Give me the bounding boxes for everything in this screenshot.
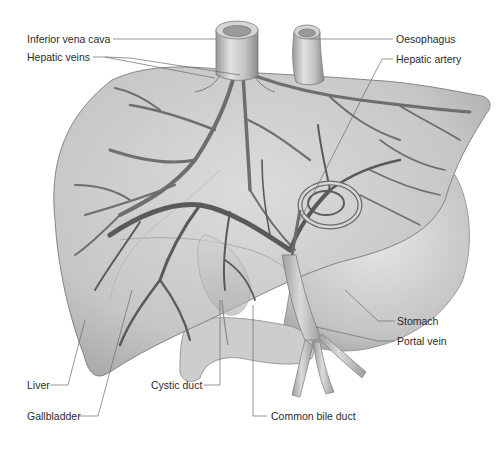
oesophagus xyxy=(293,25,324,85)
label-gallbladder: Gallbladder xyxy=(27,410,81,422)
label-hepatic-veins: Hepatic veins xyxy=(27,51,90,63)
label-hepatic-artery: Hepatic artery xyxy=(396,53,461,65)
duodenum-shape xyxy=(180,318,314,382)
illustration xyxy=(0,0,499,453)
label-liver: Liver xyxy=(27,379,50,391)
label-common-bile-duct: Common bile duct xyxy=(271,410,356,422)
label-portal-vein: Portal vein xyxy=(397,335,447,347)
label-cystic-duct: Cystic duct xyxy=(151,379,202,391)
liver-anatomy-diagram: Inferior vena cava Hepatic veins Oesopha… xyxy=(0,0,499,453)
label-stomach: Stomach xyxy=(397,315,438,327)
label-oesophagus: Oesophagus xyxy=(396,33,456,45)
label-inferior-vena-cava: Inferior vena cava xyxy=(27,33,110,45)
